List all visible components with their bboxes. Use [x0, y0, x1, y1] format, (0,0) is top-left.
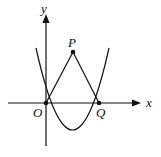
point-q-label: Q — [96, 105, 106, 120]
point-p-label: P — [67, 35, 76, 50]
segment-op — [46, 52, 73, 103]
y-axis-label: y — [39, 1, 47, 16]
x-axis-arrow-icon — [132, 100, 141, 107]
point-o-label: O — [33, 105, 43, 120]
point-p — [71, 50, 76, 55]
x-axis-label: x — [145, 95, 152, 110]
segment-pq — [73, 52, 99, 103]
diagram: y x P O Q — [0, 0, 161, 157]
point-o — [44, 101, 49, 106]
